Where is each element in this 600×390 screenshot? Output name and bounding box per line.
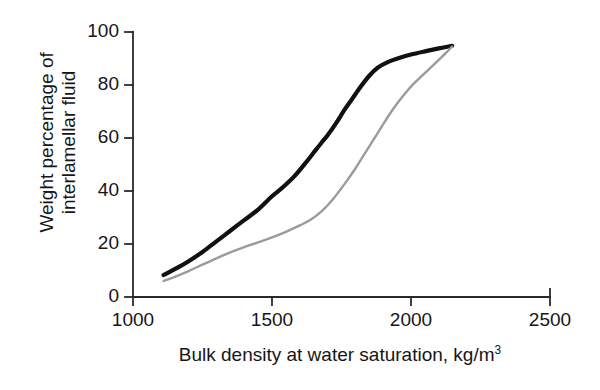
x-axis-title-text: Bulk density at water saturation, kg/m [179, 344, 495, 365]
x-tick-label: 1000 [93, 309, 173, 331]
x-axis-title: Bulk density at water saturation, kg/m3 [110, 344, 570, 366]
axis-ticks [125, 32, 550, 305]
x-axis-title-exponent: 3 [495, 343, 502, 357]
data-series [164, 46, 453, 281]
y-axis-title: Weight percentage of interlamellar fluid [36, 12, 81, 272]
x-tick-label: 2500 [510, 309, 590, 331]
chart-figure: 020406080100 1000150020002500 Weight per… [0, 0, 600, 390]
y-axis-title-line1: Weight percentage of [36, 52, 57, 232]
x-tick-label: 2000 [371, 309, 451, 331]
series-lower-curve [164, 47, 453, 282]
x-tick-label: 1500 [232, 309, 312, 331]
y-axis-title-line2: interlamellar fluid [58, 12, 80, 272]
series-upper-curve [164, 46, 453, 275]
y-tick-label: 0 [61, 285, 119, 307]
